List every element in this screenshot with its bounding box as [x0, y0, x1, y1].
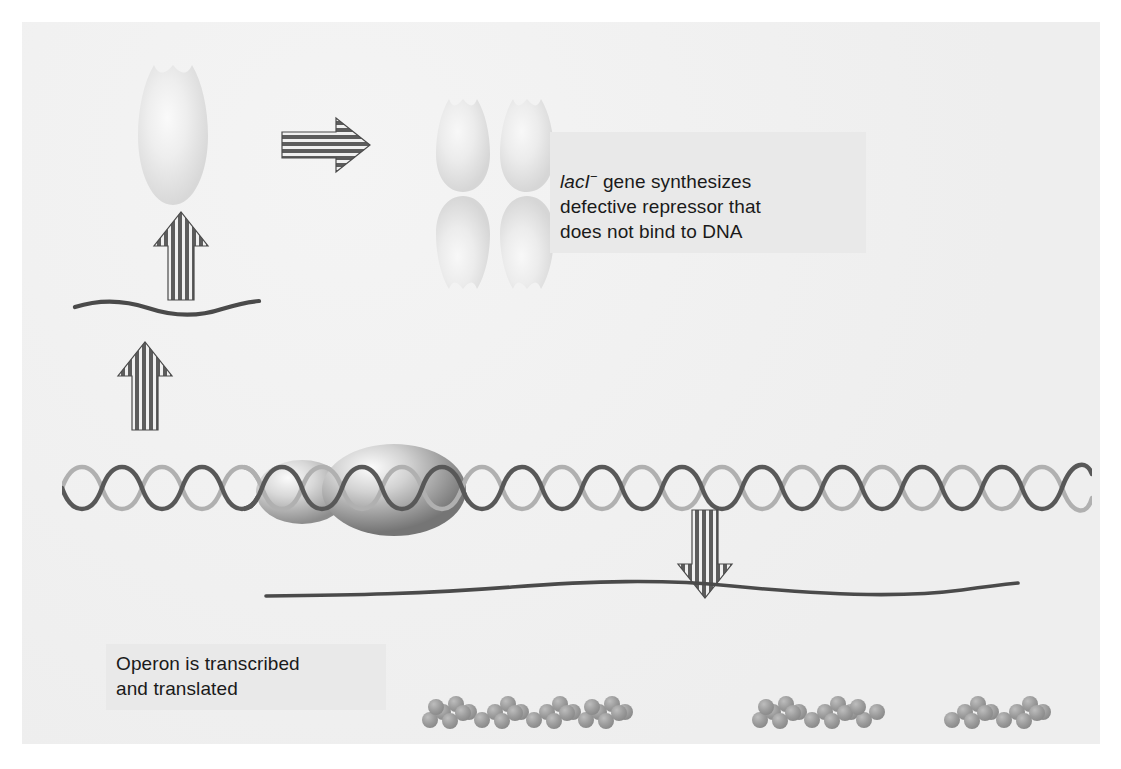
protein-chain-transacetylase: [944, 690, 1060, 734]
repressor-tetramer: [430, 96, 560, 292]
assembly-arrow-right-icon: [280, 114, 372, 176]
caption-laci-defective-repressor: lacI− gene synthesizes defective repress…: [550, 132, 866, 253]
dna-double-helix: [62, 440, 1092, 536]
translation-arrow-up-icon: [150, 210, 212, 302]
transcription-arrow-up-icon: [114, 340, 176, 432]
protein-chain-permease: [752, 690, 888, 734]
figure-root: lacI− gene synthesizes defective repress…: [0, 0, 1121, 769]
repressor-monomer: [132, 60, 214, 210]
mrna-laci-transcript: [72, 290, 262, 324]
caption-operon-transcribed: Operon is transcribed and translated: [106, 644, 386, 710]
protein-chain-beta-galactosidase: [422, 690, 638, 734]
superscript-minus: −: [590, 169, 598, 184]
gene-name-laci: lacI: [560, 171, 590, 192]
diagram-canvas: lacI− gene synthesizes defective repress…: [22, 22, 1100, 744]
mrna-operon-transcript: [262, 562, 1022, 612]
